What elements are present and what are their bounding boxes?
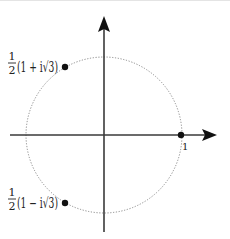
upper-fraction-denominator: 2 — [9, 64, 16, 77]
point-lower-label: 1 2 (1 − i√3) — [8, 186, 58, 213]
point-lower — [62, 200, 68, 206]
diagram-canvas: 1 1 2 (1 + i√3) 1 2 (1 − i√3) — [0, 0, 230, 239]
lower-expression: (1 − i√3) — [17, 195, 58, 211]
point-upper — [62, 64, 68, 70]
upper-fraction-numerator: 1 — [9, 50, 16, 63]
complex-plane-figure: 1 1 2 (1 + i√3) 1 2 (1 − i√3) — [0, 1, 230, 239]
point-one-label: 1 — [182, 141, 188, 152]
lower-fraction-denominator: 2 — [9, 200, 16, 213]
upper-expression: (1 + i√3) — [17, 59, 58, 75]
point-upper-label: 1 2 (1 + i√3) — [8, 50, 58, 77]
point-one — [178, 132, 184, 138]
lower-fraction-numerator: 1 — [9, 186, 16, 199]
